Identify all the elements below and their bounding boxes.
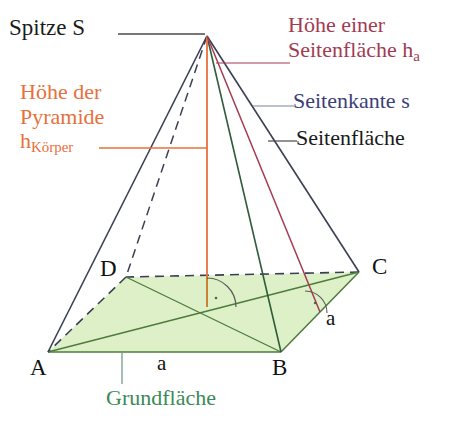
label-slant-height-line1: Höhe einer bbox=[288, 12, 385, 37]
label-body-height-line2: Pyramide bbox=[20, 104, 104, 129]
label-slant-height: Höhe einer Seitenfläche ha bbox=[288, 13, 420, 65]
label-body-height-subscript: Körper bbox=[31, 139, 73, 155]
label-vertex-d: D bbox=[100, 256, 117, 282]
slant-height-line bbox=[207, 36, 320, 312]
label-vertex-b: B bbox=[272, 355, 287, 381]
label-body-height-line3: h bbox=[20, 128, 31, 153]
label-apex: Spitze S bbox=[9, 15, 85, 41]
label-vertex-a: A bbox=[30, 355, 47, 381]
label-lateral-face: Seitenfläche bbox=[296, 126, 405, 151]
label-edge-length-bc: a bbox=[326, 307, 335, 331]
right-angle-dot-center bbox=[215, 297, 218, 300]
lateral-edge-sc bbox=[207, 36, 359, 272]
right-angle-dot-bc bbox=[314, 302, 316, 304]
label-vertex-c: C bbox=[372, 254, 387, 280]
label-edge-length-ab: a bbox=[157, 352, 166, 376]
pyramid-diagram: Spitze S Höhe einer Seitenfläche ha Seit… bbox=[0, 0, 459, 429]
label-body-height: Höhe der Pyramide hKörper bbox=[20, 80, 104, 156]
label-slant-height-subscript: a bbox=[413, 48, 420, 64]
label-body-height-line1: Höhe der bbox=[20, 79, 101, 104]
lateral-edge-sd-hidden bbox=[126, 36, 207, 277]
label-slant-height-line2: Seitenfläche h bbox=[288, 37, 413, 62]
label-base-face: Grundfläche bbox=[106, 386, 216, 411]
label-lateral-edge: Seitenkante s bbox=[293, 89, 410, 114]
